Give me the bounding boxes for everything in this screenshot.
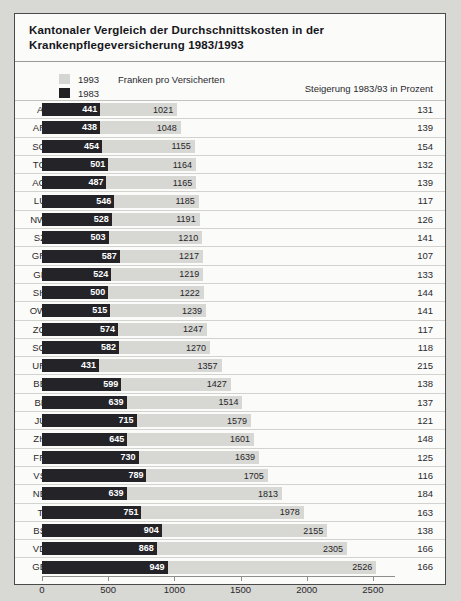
chart-row: AR4381048139 bbox=[15, 118, 445, 136]
increase-percent-value: 144 bbox=[399, 287, 433, 298]
bar-value-1993: 1191 bbox=[42, 214, 196, 224]
increase-percent-value: 131 bbox=[399, 104, 433, 115]
increase-percent-value: 166 bbox=[399, 561, 433, 572]
chart-panel: Kantonaler Vergleich der Durchschnittsko… bbox=[14, 13, 446, 585]
x-axis-tick-label: 2000 bbox=[296, 584, 317, 595]
bar-value-1993: 1978 bbox=[42, 507, 300, 517]
chart-plot-area: AI4411021131AR4381048139SG4541155154TG50… bbox=[15, 100, 445, 576]
bar-value-1993: 1165 bbox=[42, 178, 192, 188]
bar-value-1993: 1357 bbox=[42, 361, 218, 371]
x-axis-tick bbox=[42, 576, 43, 581]
bar-value-1993: 2526 bbox=[42, 562, 372, 572]
bar-value-1993: 1579 bbox=[42, 416, 247, 426]
bar-value-1993: 1239 bbox=[42, 306, 202, 316]
x-axis-line bbox=[42, 576, 395, 577]
bar-value-1993: 1217 bbox=[42, 251, 199, 261]
x-axis-tick-label: 500 bbox=[100, 584, 116, 595]
x-axis-tick-label: 1000 bbox=[164, 584, 185, 595]
chart-row: ZH6451601148 bbox=[15, 429, 445, 447]
increase-percent-value: 133 bbox=[399, 269, 433, 280]
bar-value-1993: 1705 bbox=[42, 471, 264, 481]
chart-header: Kantonaler Vergleich der Durchschnittsko… bbox=[15, 14, 445, 62]
chart-row: UR4311357215 bbox=[15, 356, 445, 374]
chart-row: LU5461185117 bbox=[15, 191, 445, 209]
x-axis-tick-label: 2500 bbox=[362, 584, 383, 595]
bar-value-1993: 1514 bbox=[42, 397, 238, 407]
percent-column-header: Steigerung 1983/93 in Prozent bbox=[305, 83, 433, 94]
bar-value-1993: 1164 bbox=[42, 160, 192, 170]
x-axis: 05001000150020002500 bbox=[15, 576, 445, 601]
chart-row: TI7511978163 bbox=[15, 503, 445, 521]
chart-row: NE6391813184 bbox=[15, 484, 445, 502]
increase-percent-value: 215 bbox=[399, 360, 433, 371]
increase-percent-value: 166 bbox=[399, 543, 433, 554]
chart-row: TG5011164132 bbox=[15, 155, 445, 173]
increase-percent-value: 148 bbox=[399, 433, 433, 444]
bar-value-1993: 1270 bbox=[42, 343, 206, 353]
bar-value-1993: 1021 bbox=[42, 105, 173, 115]
increase-percent-value: 132 bbox=[399, 159, 433, 170]
increase-percent-value: 139 bbox=[399, 122, 433, 133]
bar-value-1993: 1155 bbox=[42, 141, 191, 151]
increase-percent-value: 117 bbox=[399, 324, 433, 335]
chart-row: GE9492526166 bbox=[15, 557, 445, 575]
bar-value-1993: 1813 bbox=[42, 489, 278, 499]
increase-percent-value: 138 bbox=[399, 378, 433, 389]
chart-row: FR7301639125 bbox=[15, 448, 445, 466]
chart-row: SO5821270118 bbox=[15, 338, 445, 356]
x-axis-tick bbox=[108, 576, 109, 581]
chart-row: AG4871165139 bbox=[15, 173, 445, 191]
bar-value-1993: 2155 bbox=[42, 526, 323, 536]
bar-value-1993: 1185 bbox=[42, 196, 195, 206]
increase-percent-value: 137 bbox=[399, 397, 433, 408]
chart-row: VS7891705116 bbox=[15, 466, 445, 484]
increase-percent-value: 116 bbox=[399, 470, 433, 481]
bar-value-1993: 1222 bbox=[42, 288, 200, 298]
chart-row: SH5001222144 bbox=[15, 283, 445, 301]
x-axis-tick bbox=[307, 576, 308, 581]
chart-row: GL5241219133 bbox=[15, 265, 445, 283]
chart-row: SG4541155154 bbox=[15, 137, 445, 155]
increase-percent-value: 163 bbox=[399, 507, 433, 518]
x-axis-tick bbox=[373, 576, 374, 581]
bar-value-1993: 1219 bbox=[42, 269, 199, 279]
increase-percent-value: 141 bbox=[399, 305, 433, 316]
x-axis-tick bbox=[241, 576, 242, 581]
chart-row: BS9042155138 bbox=[15, 521, 445, 539]
page-title-line-2: Krankenpflegeversicherung 1983/1993 bbox=[29, 38, 431, 53]
legend-item-1983: 1983 bbox=[59, 83, 118, 95]
legend-swatch-1983-icon bbox=[59, 88, 70, 98]
chart-row: AI4411021131 bbox=[15, 100, 445, 118]
bar-value-1993: 1048 bbox=[42, 123, 177, 133]
increase-percent-value: 117 bbox=[399, 195, 433, 206]
page-title-line-1: Kantonaler Vergleich der Durchschnittsko… bbox=[29, 23, 431, 38]
legend-unit-note: Franken pro Versicherten bbox=[118, 74, 225, 85]
chart-row: GR5871217107 bbox=[15, 246, 445, 264]
bar-value-1993: 1210 bbox=[42, 233, 198, 243]
chart-legend: 1993Franken pro Versicherten 1983 Steige… bbox=[15, 62, 445, 99]
increase-percent-value: 184 bbox=[399, 488, 433, 499]
chart-row: VD8682305166 bbox=[15, 539, 445, 557]
chart-row: JU7151579121 bbox=[15, 411, 445, 429]
bar-value-1993: 1639 bbox=[42, 452, 255, 462]
x-axis-tick-label: 0 bbox=[39, 584, 44, 595]
bar-value-1993: 1427 bbox=[42, 379, 227, 389]
increase-percent-value: 118 bbox=[399, 342, 433, 353]
increase-percent-value: 125 bbox=[399, 452, 433, 463]
x-axis-tick bbox=[174, 576, 175, 581]
increase-percent-value: 121 bbox=[399, 415, 433, 426]
legend-item-1993: 1993Franken pro Versicherten bbox=[59, 69, 225, 81]
bar-value-1993: 1247 bbox=[42, 324, 203, 334]
increase-percent-value: 141 bbox=[399, 232, 433, 243]
chart-row: BE5991427138 bbox=[15, 374, 445, 392]
increase-percent-value: 138 bbox=[399, 525, 433, 536]
chart-row: NW5281191126 bbox=[15, 210, 445, 228]
increase-percent-value: 139 bbox=[399, 177, 433, 188]
increase-percent-value: 154 bbox=[399, 141, 433, 152]
increase-percent-value: 107 bbox=[399, 250, 433, 261]
chart-row: OW5151239141 bbox=[15, 301, 445, 319]
x-axis-tick-label: 1500 bbox=[230, 584, 251, 595]
bar-value-1993: 1601 bbox=[42, 434, 250, 444]
increase-percent-value: 126 bbox=[399, 214, 433, 225]
bar-value-1993: 2305 bbox=[42, 544, 343, 554]
